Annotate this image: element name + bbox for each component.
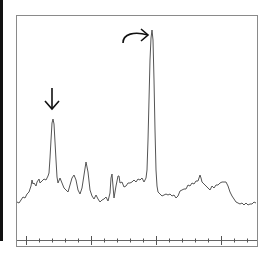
spectrum-trace	[17, 30, 256, 205]
plot-frame	[17, 16, 258, 247]
arrow-down-icon	[45, 88, 59, 109]
spectrum-chart	[0, 0, 274, 254]
curved-arrow-icon	[123, 29, 148, 43]
